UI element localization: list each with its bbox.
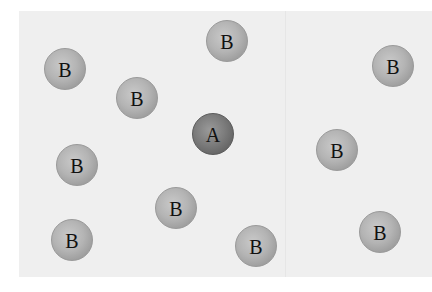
particle-label: B xyxy=(249,237,262,257)
particle: B xyxy=(316,129,358,171)
particle: B xyxy=(155,187,197,229)
particle: B xyxy=(44,48,86,90)
particle-label: B xyxy=(330,141,343,161)
particle: B xyxy=(116,77,158,119)
particle-label: B xyxy=(65,231,78,251)
particle: B xyxy=(359,211,401,253)
particle-label: B xyxy=(70,156,83,176)
particle-a: A xyxy=(192,113,234,155)
particle: B xyxy=(372,45,414,87)
particle-label: B xyxy=(373,223,386,243)
particle: B xyxy=(235,225,277,267)
particle-label: A xyxy=(206,125,220,145)
particle-label: B xyxy=(220,32,233,52)
panel-seam xyxy=(285,11,286,277)
particle-label: B xyxy=(169,199,182,219)
particle: B xyxy=(206,20,248,62)
particle-label: B xyxy=(130,89,143,109)
particle: B xyxy=(56,144,98,186)
particle-label: B xyxy=(58,60,71,80)
particle-label: B xyxy=(386,57,399,77)
particle: B xyxy=(51,219,93,261)
